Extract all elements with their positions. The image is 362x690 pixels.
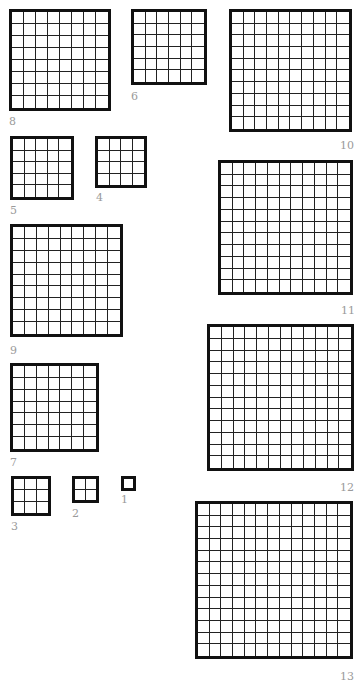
grid-cell bbox=[255, 94, 267, 106]
grid-cell bbox=[268, 609, 280, 621]
grid-cell bbox=[110, 162, 122, 174]
grid-cell bbox=[245, 598, 257, 610]
grid-cell bbox=[303, 644, 315, 656]
grid-cell bbox=[72, 413, 84, 425]
grid-cell bbox=[315, 233, 327, 245]
grid-cell bbox=[108, 275, 120, 287]
grid-cell bbox=[314, 94, 326, 106]
grid-cell bbox=[48, 96, 60, 108]
grid-cell bbox=[25, 310, 37, 322]
grid-cell bbox=[84, 413, 96, 425]
grid-cell bbox=[292, 456, 304, 468]
grid-cell bbox=[72, 12, 84, 24]
grid-cell bbox=[291, 163, 303, 175]
grid-cell bbox=[233, 210, 245, 222]
grid-cell bbox=[233, 609, 245, 621]
grid-cell bbox=[292, 516, 304, 528]
grid-cell bbox=[59, 139, 71, 151]
grid-cell bbox=[72, 378, 84, 390]
grid-cell bbox=[256, 586, 268, 598]
grid-cell bbox=[279, 117, 291, 129]
grid-cell bbox=[13, 239, 25, 251]
grid-cell bbox=[221, 269, 233, 281]
grid-cell bbox=[157, 35, 169, 47]
grid-cell bbox=[13, 437, 25, 449]
grid-cell bbox=[96, 310, 108, 322]
grid-cell bbox=[304, 409, 316, 421]
grid-cell bbox=[244, 12, 256, 24]
grid-cell bbox=[303, 527, 315, 539]
grid-cell bbox=[257, 386, 269, 398]
grid-cell bbox=[221, 245, 233, 257]
grid-cell bbox=[304, 351, 316, 363]
grid-cell bbox=[124, 479, 133, 488]
grid-cell bbox=[133, 139, 145, 151]
grid-label-8: 8 bbox=[9, 116, 16, 127]
grid-cell bbox=[268, 504, 280, 516]
grid-cell bbox=[292, 644, 304, 656]
grid-cell bbox=[86, 479, 97, 490]
grid-cell bbox=[233, 269, 245, 281]
grid-cell bbox=[13, 390, 25, 402]
grid-cell bbox=[326, 35, 338, 47]
grid-cell bbox=[327, 257, 339, 269]
grid-cell bbox=[72, 425, 84, 437]
grid-cell bbox=[303, 551, 315, 563]
grid-cell bbox=[36, 48, 48, 60]
grid-cell bbox=[233, 633, 245, 645]
grid-cell bbox=[84, 60, 96, 72]
grid-cell bbox=[327, 644, 339, 656]
grid-cell bbox=[37, 402, 49, 414]
grid-cell bbox=[268, 280, 280, 292]
grid-cell bbox=[339, 327, 351, 339]
grid-cell bbox=[245, 374, 257, 386]
grid-cell bbox=[269, 456, 281, 468]
grid-cell bbox=[316, 374, 328, 386]
grid-cell bbox=[303, 257, 315, 269]
grid-cell bbox=[337, 106, 349, 118]
grid-cell bbox=[257, 351, 269, 363]
grid-cell bbox=[245, 351, 257, 363]
grid-cell bbox=[302, 106, 314, 118]
grid-cell bbox=[327, 222, 339, 234]
grid-cell bbox=[327, 245, 339, 257]
grid-cell bbox=[181, 70, 193, 82]
grid-cell bbox=[302, 47, 314, 59]
grid-cell bbox=[244, 163, 256, 175]
grid-cell bbox=[304, 398, 316, 410]
grid-cell bbox=[169, 35, 181, 47]
grid-cell bbox=[84, 298, 96, 310]
grid-cell bbox=[281, 445, 293, 457]
grid-cell bbox=[96, 286, 108, 298]
grid-cell bbox=[210, 421, 222, 433]
grid-cell bbox=[60, 425, 72, 437]
grid-cell bbox=[327, 280, 339, 292]
grid-cell bbox=[134, 70, 146, 82]
grid-cell bbox=[198, 539, 210, 551]
grid-cell bbox=[24, 72, 36, 84]
grid-cell bbox=[24, 48, 36, 60]
grid-cell bbox=[61, 298, 73, 310]
grid-cell bbox=[328, 456, 340, 468]
grid-cell bbox=[36, 96, 48, 108]
grid-cell bbox=[60, 402, 72, 414]
grid-cell bbox=[98, 174, 110, 186]
grid-cell bbox=[314, 117, 326, 129]
grid-label-9: 9 bbox=[10, 345, 17, 356]
grid-cell bbox=[221, 527, 233, 539]
grid-cell bbox=[181, 47, 193, 59]
square-grid-9 bbox=[10, 224, 123, 337]
grid-cell bbox=[304, 386, 316, 398]
grid-cell bbox=[328, 362, 340, 374]
square-grid-5 bbox=[10, 136, 74, 200]
grid-cell bbox=[210, 445, 222, 457]
grid-cell bbox=[268, 257, 280, 269]
grid-cell bbox=[327, 609, 339, 621]
grid-cell bbox=[233, 621, 245, 633]
grid-cell bbox=[292, 374, 304, 386]
grid-cell bbox=[108, 286, 120, 298]
grid-cell bbox=[302, 82, 314, 94]
grid-cell bbox=[61, 322, 73, 334]
grid-cell bbox=[221, 210, 233, 222]
grid-cell bbox=[245, 644, 257, 656]
